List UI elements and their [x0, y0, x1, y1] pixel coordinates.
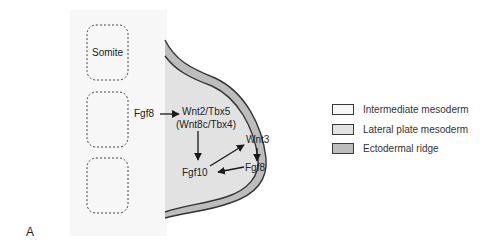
legend: Intermediate mesoderm Lateral plate meso… [332, 100, 469, 159]
legend-item-intermediate-mesoderm: Intermediate mesoderm [332, 100, 469, 120]
legend-swatch [332, 143, 354, 154]
label-wnt8c-tbx4: (Wnt8c/Tbx4) [176, 120, 236, 130]
intermediate-mesoderm-region [70, 10, 167, 236]
label-fgf10: Fgf10 [182, 168, 208, 178]
label-fgf8-left: Fgf8 [134, 109, 154, 119]
legend-swatch [332, 124, 354, 135]
legend-label: Intermediate mesoderm [363, 104, 469, 115]
somite-label: Somite [92, 48, 123, 58]
legend-item-lateral-plate-mesoderm: Lateral plate mesoderm [332, 120, 469, 140]
legend-item-ectodermal-ridge: Ectodermal ridge [332, 139, 469, 159]
legend-swatch [332, 104, 354, 115]
label-wnt3: Wnt3 [246, 135, 269, 145]
label-wnt2-tbx5: Wnt2/Tbx5 [182, 107, 230, 117]
panel-letter: A [26, 225, 34, 239]
legend-label: Lateral plate mesoderm [363, 124, 468, 135]
label-fgf8-right: Fgf8 [245, 163, 265, 173]
legend-label: Ectodermal ridge [363, 143, 439, 154]
